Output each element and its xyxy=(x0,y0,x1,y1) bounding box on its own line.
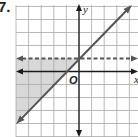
arrow-right-icon xyxy=(131,56,138,62)
arrow-up-icon xyxy=(76,4,82,11)
y-axis xyxy=(76,4,82,137)
y-axis-label: y xyxy=(82,3,88,15)
x-axis-label: x xyxy=(133,73,138,85)
arrow-down-icon xyxy=(76,130,82,137)
origin-label: O xyxy=(69,74,78,86)
coordinate-plane-graph: y x O xyxy=(0,0,138,137)
